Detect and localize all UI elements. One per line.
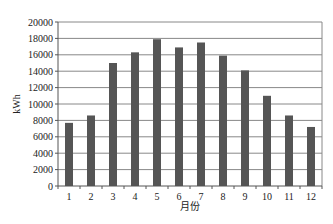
x-tick-label: 9 <box>243 191 248 202</box>
x-axis-title: 月份 <box>180 201 200 212</box>
x-tick-label: 10 <box>262 191 272 202</box>
y-tick-label: 10000 <box>28 99 53 110</box>
y-tick-label: 2000 <box>33 164 53 175</box>
x-tick-label: 4 <box>133 191 138 202</box>
y-tick-label: 16000 <box>28 49 53 60</box>
x-tick-label: 2 <box>89 191 94 202</box>
bar-month-7 <box>197 43 205 187</box>
y-tick-label: 0 <box>48 181 53 192</box>
y-tick-label: 20000 <box>28 17 53 28</box>
bar-month-6 <box>175 47 183 186</box>
monthly-energy-bar-chart: 0200040006000800010000120001400016000180… <box>0 0 333 224</box>
y-tick-label: 14000 <box>28 66 53 77</box>
bar-month-10 <box>263 96 271 186</box>
bar-month-9 <box>241 70 249 186</box>
y-tick-label: 4000 <box>33 148 53 159</box>
bar-month-3 <box>109 63 117 186</box>
x-tick-label: 1 <box>67 191 72 202</box>
bar-month-4 <box>131 52 139 186</box>
bars <box>65 39 315 186</box>
y-axis-title: kWh <box>11 94 22 113</box>
y-tick-label: 6000 <box>33 131 53 142</box>
x-tick-label: 8 <box>221 191 226 202</box>
bar-month-12 <box>307 127 315 186</box>
x-tick-label: 3 <box>111 191 116 202</box>
x-tick-label: 11 <box>284 191 294 202</box>
y-tick-label: 12000 <box>28 82 53 93</box>
gridlines <box>58 22 322 170</box>
bar-month-5 <box>153 39 161 186</box>
axes <box>55 22 322 189</box>
x-tick-label: 5 <box>155 191 160 202</box>
bar-month-11 <box>285 115 293 186</box>
y-tick-labels: 0200040006000800010000120001400016000180… <box>28 17 53 192</box>
bar-month-2 <box>87 115 95 186</box>
x-tick-label: 12 <box>306 191 316 202</box>
bar-month-1 <box>65 123 73 186</box>
bar-month-8 <box>219 56 227 186</box>
y-tick-label: 8000 <box>33 115 53 126</box>
y-tick-label: 18000 <box>28 33 53 44</box>
